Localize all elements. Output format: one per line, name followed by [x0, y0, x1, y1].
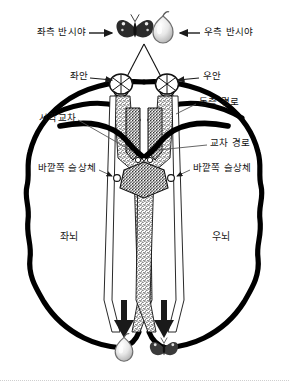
visual-pathway-figure: 좌측 반시야 우측 반시야 좌안 우안 동측 경로 시각교차 교차 경로 바깥쪽…	[0, 0, 289, 385]
label-lgn-right: 바깥쪽 슬상체	[193, 163, 281, 173]
label-optic-chiasm: 시각교차	[10, 113, 76, 123]
label-left-hemifield: 좌측 반시야	[4, 27, 86, 37]
label-right-eye: 우안	[203, 71, 253, 81]
label-left-brain: 좌뇌	[42, 231, 96, 242]
label-lgn-left: 바깥쪽 슬상체	[8, 163, 96, 173]
label-right-hemifield: 우측 반시야	[204, 27, 286, 37]
right-eye-globe	[156, 74, 179, 97]
figure-canvas	[0, 0, 289, 385]
top-right-pear-icon	[153, 12, 173, 43]
top-left-butterfly-icon	[116, 14, 153, 37]
label-right-brain: 우뇌	[194, 231, 248, 242]
bottom-left-pear-icon	[115, 334, 133, 362]
optic-chiasm-band	[60, 123, 228, 156]
label-left-eye: 좌안	[38, 71, 88, 81]
label-crossed-pathway: 교차 경로	[210, 138, 284, 148]
left-eye-globe	[110, 74, 133, 97]
label-ipsilateral-pathway: 동측 경로	[199, 97, 281, 107]
bottom-divider	[0, 379, 289, 381]
